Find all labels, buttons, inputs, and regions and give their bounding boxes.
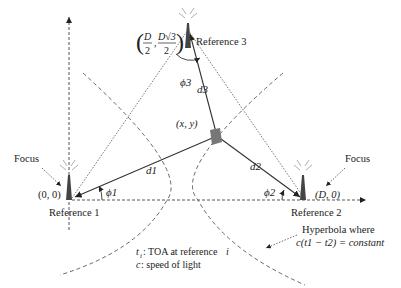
focus-label-right: Focus — [345, 153, 370, 164]
triangle-edges — [72, 30, 304, 198]
svg-text:i: i — [226, 246, 229, 257]
svg-text:(: ( — [136, 29, 144, 55]
svg-text:,: , — [154, 37, 157, 48]
phi3-label: ϕ3 — [180, 76, 192, 88]
svg-text:2: 2 — [164, 45, 169, 56]
d3-label: d3 — [197, 83, 209, 95]
svg-text:D√3: D√3 — [157, 31, 176, 42]
reference-1-coord: (0, 0) — [38, 189, 61, 201]
target-label: (x, y) — [176, 118, 198, 130]
focus-label-left: Focus — [14, 153, 39, 164]
tower-icon-reference-1 — [60, 160, 78, 200]
mobile-device-icon — [210, 128, 222, 145]
hyperbola-note-line2: c(t1 − t2) = constant — [296, 237, 385, 249]
svg-text:: TOA at reference: : TOA at reference — [143, 246, 218, 257]
phi1-label: ϕ1 — [106, 186, 117, 198]
reference-2-coord: (D, 0) — [315, 189, 341, 201]
svg-text:D: D — [143, 31, 152, 42]
reference-3-coord: ( D 2 , D√3 2 ) — [136, 29, 184, 56]
reference-1-label: Reference 1 — [49, 207, 99, 218]
phi2-label: ϕ2 — [264, 186, 276, 198]
legend: t i : TOA at reference i c : speed of li… — [136, 246, 229, 270]
hyperbola-note-line1: Hyperbola where — [302, 224, 375, 235]
reference-2-label: Reference 2 — [291, 207, 341, 218]
d2-label: d2 — [250, 160, 262, 172]
svg-text:: speed of light: : speed of light — [141, 259, 201, 270]
distance-lines — [75, 34, 300, 197]
svg-text:2: 2 — [145, 45, 150, 56]
svg-text:): ) — [176, 29, 184, 55]
tdoa-diagram: Focus Focus (0, 0) Reference 1 (D, 0) Re… — [0, 0, 401, 288]
d1-label: d1 — [146, 164, 157, 176]
reference-3-label: Reference 3 — [196, 36, 246, 47]
svg-text:t: t — [136, 246, 139, 257]
